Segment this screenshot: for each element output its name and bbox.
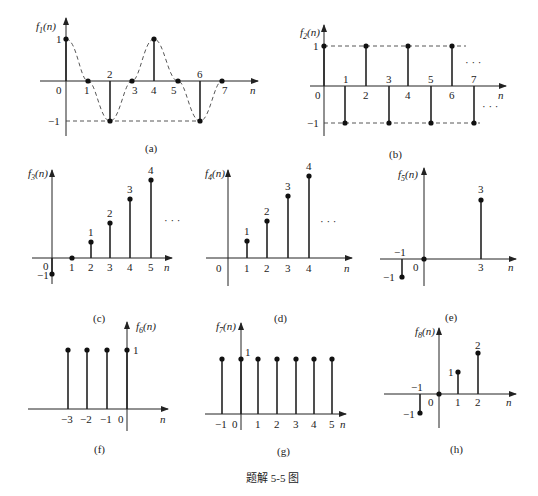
- panel-label-e: (e): [445, 311, 458, 324]
- panel-label-b: (b): [389, 148, 402, 161]
- ytick-minus-1: −1: [48, 115, 60, 127]
- xtick-4: 4: [306, 262, 312, 274]
- y-axis-label: f5(n): [398, 168, 418, 183]
- panel-label-g: (g): [277, 445, 290, 458]
- xtick-4: 4: [151, 84, 157, 96]
- x-axis-label: n: [160, 413, 166, 425]
- y-axis-label: f4(n): [205, 167, 225, 182]
- plot-h: f8(n) −1 −1 0 1 2 1 2 n (h): [384, 325, 516, 456]
- y-axis-label: f1(n): [36, 20, 56, 35]
- ytick-1: 1: [133, 344, 139, 356]
- plot-g: f7(n) 1 −1 0 1 2 3 4 5 n (g): [205, 320, 346, 458]
- xtick-minus-3: −3: [61, 413, 73, 425]
- xtick-minus-2: −2: [80, 413, 92, 425]
- xtick-0: 0: [56, 84, 62, 96]
- panel-label-f: (f): [94, 443, 105, 456]
- y-axis-label: f6(n): [136, 320, 156, 335]
- value-label-3: 3: [285, 180, 291, 192]
- continuation: · · ·: [164, 214, 181, 226]
- xtick-4: 4: [405, 89, 411, 101]
- value-label-minus-1: −1: [383, 271, 395, 283]
- xtick-4: 4: [127, 261, 133, 273]
- xtick-2: 2: [363, 89, 369, 101]
- value-label-3: 3: [127, 183, 133, 195]
- panel-label-c: (c): [93, 312, 106, 325]
- xtick-5: 5: [171, 84, 177, 96]
- value-label-2: 2: [107, 207, 113, 219]
- xtick-minus-1: −1: [411, 381, 423, 393]
- value-label-2: 2: [475, 339, 481, 351]
- xtick-7: 7: [471, 73, 477, 85]
- xtick-minus-1: −1: [394, 246, 406, 258]
- xtick-3: 3: [293, 418, 299, 430]
- xtick-2: 2: [274, 418, 280, 430]
- plot-d: f4(n) 0 1 2 3 4 n 1 2 3 4 · · · (d): [205, 160, 352, 325]
- xtick-1: 1: [455, 396, 461, 408]
- x-axis-label: n: [506, 396, 512, 408]
- x-axis-label: n: [498, 89, 504, 101]
- value-label-1: 1: [244, 225, 250, 237]
- xtick-6: 6: [449, 89, 455, 101]
- y-axis-label: f2(n): [300, 26, 320, 41]
- plot-b: f2(n) 1 −1 0 1 2 3 4 5 6 7 n · · · · · ·…: [300, 25, 506, 161]
- xtick-3: 3: [478, 261, 484, 273]
- xtick-1: 1: [244, 262, 250, 274]
- ytick-minus-1: −1: [307, 117, 319, 129]
- plot-a: f1(n) 1 −1 0 1 2 3 4 5 6 7 n (a): [36, 18, 258, 155]
- y-axis-label: f3(n): [28, 167, 48, 182]
- plot-c: f3(n) 0 −1 1 2 3 4 5 n 1 2 3 4 · · · (c): [28, 164, 181, 325]
- value-label-1: 1: [448, 366, 454, 378]
- xtick-1: 1: [69, 261, 75, 273]
- xtick-0: 0: [216, 262, 222, 274]
- xtick-0: 0: [232, 418, 238, 430]
- xtick-minus-1: −1: [215, 418, 227, 430]
- continuation-upper: · · ·: [465, 56, 482, 68]
- xtick-3: 3: [132, 84, 138, 96]
- plot-f: f6(n) 1 −3 −2 −1 0 n (f): [28, 320, 168, 456]
- value-label-1: 1: [88, 226, 94, 238]
- continuation-lower: · · ·: [482, 100, 499, 112]
- xtick-0: 0: [315, 89, 321, 101]
- value-label-minus-1: −1: [403, 408, 415, 420]
- panel-label-d: (d): [274, 312, 287, 325]
- xtick-5: 5: [428, 73, 434, 85]
- value-label-2: 2: [264, 205, 270, 217]
- xtick-0: 0: [118, 413, 124, 425]
- x-axis-label: n: [344, 262, 350, 274]
- xtick-3: 3: [386, 73, 392, 85]
- x-axis-label: n: [508, 261, 514, 273]
- xtick-6: 6: [197, 68, 203, 80]
- value-label-minus-1: −1: [37, 269, 49, 281]
- continuation: · · ·: [320, 215, 337, 227]
- xtick-1: 1: [343, 73, 349, 85]
- xtick-2: 2: [88, 261, 94, 273]
- xtick-3: 3: [285, 262, 291, 274]
- xtick-minus-1: −1: [100, 413, 112, 425]
- xtick-0: 0: [428, 396, 434, 408]
- xtick-5: 5: [329, 418, 335, 430]
- xtick-0: 0: [413, 261, 419, 273]
- xtick-4: 4: [311, 418, 317, 430]
- xtick-1: 1: [84, 84, 90, 96]
- xtick-7: 7: [222, 84, 228, 96]
- figure-canvas: f1(n) 1 −1 0 1 2 3 4 5 6 7 n (a) f2(n) 1…: [0, 0, 538, 496]
- xtick-2: 2: [107, 68, 113, 80]
- value-label-4: 4: [148, 164, 154, 176]
- plot-e: f5(n) −1 −1 0 3 3 n (e): [380, 168, 516, 324]
- figure-caption: 题解 5-5 图: [246, 471, 299, 484]
- xtick-5: 5: [148, 261, 154, 273]
- y-axis-label: f8(n): [415, 325, 435, 340]
- xtick-2: 2: [475, 396, 481, 408]
- value-label-3: 3: [478, 183, 484, 195]
- x-axis-label: n: [250, 84, 256, 96]
- x-axis-label: n: [164, 261, 170, 273]
- ytick-1: 1: [245, 346, 251, 358]
- xtick-3: 3: [107, 261, 113, 273]
- xtick-1: 1: [255, 418, 261, 430]
- ytick-1: 1: [56, 33, 62, 45]
- panel-label-h: (h): [450, 443, 463, 456]
- ytick-1: 1: [313, 40, 319, 52]
- value-label-4: 4: [306, 160, 312, 172]
- x-axis-label: n: [340, 418, 346, 430]
- panel-label-a: (a): [145, 142, 158, 155]
